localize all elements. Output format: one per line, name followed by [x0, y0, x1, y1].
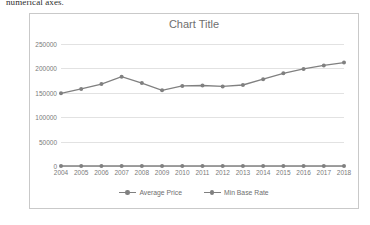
x-axis-tick-label: 2009 — [155, 169, 169, 176]
data-point-marker[interactable] — [342, 164, 346, 168]
x-axis-tick-label: 2008 — [135, 169, 149, 176]
data-point-marker[interactable] — [241, 164, 245, 168]
data-point-marker[interactable] — [160, 164, 164, 168]
data-point-marker[interactable] — [261, 164, 265, 168]
data-point-marker[interactable] — [322, 63, 326, 67]
legend-item-average-price[interactable]: Average Price — [119, 189, 182, 196]
data-point-marker[interactable] — [241, 83, 245, 87]
data-point-marker[interactable] — [201, 164, 205, 168]
data-point-marker[interactable] — [59, 91, 63, 95]
x-axis-tick-label: 2006 — [94, 169, 108, 176]
data-point-marker[interactable] — [180, 164, 184, 168]
plot-area: 050000100000150000200000250000 — [61, 44, 344, 166]
data-point-marker[interactable] — [221, 164, 225, 168]
data-point-marker[interactable] — [281, 71, 285, 75]
x-axis-tick-label: 2010 — [175, 169, 189, 176]
data-point-marker[interactable] — [302, 164, 306, 168]
data-point-marker[interactable] — [180, 84, 184, 88]
data-point-marker[interactable] — [302, 67, 306, 71]
y-axis-tick-label: 50000 — [39, 138, 57, 145]
x-axis-tick-label: 2012 — [215, 169, 229, 176]
data-point-marker[interactable] — [120, 164, 124, 168]
data-point-marker[interactable] — [120, 75, 124, 79]
y-axis-tick-label: 150000 — [35, 89, 57, 96]
data-point-marker[interactable] — [221, 84, 225, 88]
data-point-marker[interactable] — [160, 88, 164, 92]
data-point-marker[interactable] — [322, 164, 326, 168]
data-point-marker[interactable] — [99, 164, 103, 168]
legend-marker-icon — [119, 189, 136, 196]
series-group — [61, 44, 344, 166]
data-point-marker[interactable] — [140, 81, 144, 85]
y-axis-tick-label: 250000 — [35, 41, 57, 48]
legend-label: Average Price — [139, 189, 182, 196]
x-axis-tick-label: 2004 — [54, 169, 68, 176]
series-line — [61, 63, 344, 94]
data-point-marker[interactable] — [140, 164, 144, 168]
y-axis-tick-label: 100000 — [35, 114, 57, 121]
data-point-marker[interactable] — [281, 164, 285, 168]
legend-label: Min Base Rate — [224, 189, 269, 196]
x-axis-tick-label: 2017 — [317, 169, 331, 176]
data-point-marker[interactable] — [79, 87, 83, 91]
chart-legend: Average Price Min Base Rate — [30, 189, 358, 196]
x-axis-tick-label: 2014 — [256, 169, 270, 176]
x-axis-tick-label: 2011 — [196, 169, 210, 176]
legend-marker-icon — [204, 189, 221, 196]
data-point-marker[interactable] — [261, 77, 265, 81]
y-axis-tick-label: 200000 — [35, 65, 57, 72]
data-point-marker[interactable] — [201, 83, 205, 87]
data-point-marker[interactable] — [342, 61, 346, 65]
chart-title: Chart Title — [30, 18, 358, 30]
data-point-marker[interactable] — [99, 82, 103, 86]
x-axis-labels: 2004200520062007200820092010201120122013… — [61, 169, 344, 181]
x-axis-tick-label: 2018 — [337, 169, 351, 176]
x-axis-tick-label: 2016 — [296, 169, 310, 176]
x-axis-tick-label: 2013 — [236, 169, 250, 176]
x-axis-tick-label: 2005 — [74, 169, 88, 176]
x-axis-tick-label: 2015 — [276, 169, 290, 176]
page-caption: numerical axes. — [6, 0, 64, 7]
legend-item-min-base-rate[interactable]: Min Base Rate — [204, 189, 269, 196]
chart-container: Chart Title 0500001000001500002000002500… — [29, 13, 359, 209]
data-point-marker[interactable] — [79, 164, 83, 168]
x-axis-tick-label: 2007 — [114, 169, 128, 176]
data-point-marker[interactable] — [59, 164, 63, 168]
